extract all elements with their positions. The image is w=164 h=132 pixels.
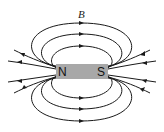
arrow-icon	[79, 96, 84, 100]
bar-magnet-field-diagram: N S B	[0, 0, 164, 132]
arrow-icon	[17, 60, 22, 64]
field-line-top-outer	[32, 23, 132, 66]
field-line-bottom-inner	[52, 76, 113, 98]
arrow-icon	[79, 32, 84, 36]
field-line-left-1	[14, 50, 56, 67]
arrow-icon	[79, 44, 84, 48]
field-label: B	[78, 8, 85, 20]
north-pole-label: N	[58, 65, 67, 79]
field-line-top-middle	[41, 34, 121, 67]
arrow-icon	[142, 61, 147, 65]
arrow-icon	[79, 21, 84, 25]
arrow-icon	[142, 79, 147, 83]
arrow-icon	[20, 53, 25, 57]
arrow-icon	[79, 107, 84, 111]
arrow-icon	[17, 79, 22, 83]
arrow-icon	[79, 119, 84, 123]
arrow-icon	[140, 51, 145, 56]
south-pole-label: S	[97, 65, 105, 79]
field-line-bottom-middle	[41, 77, 121, 109]
arrow-icon	[140, 87, 145, 92]
